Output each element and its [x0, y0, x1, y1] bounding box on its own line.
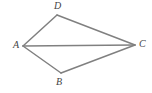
edge-group: [23, 15, 135, 73]
vertex-label-c: C: [139, 39, 146, 49]
vertex-label-d: D: [54, 1, 61, 11]
edge-a-b: [23, 46, 61, 73]
vertex-label-a: A: [13, 40, 19, 50]
figure-canvas: [0, 0, 152, 93]
edge-b-c: [61, 45, 135, 73]
edge-a-c-diagonal: [23, 45, 135, 46]
vertex-label-b: B: [56, 77, 62, 87]
edge-a-d: [23, 15, 57, 46]
geometry-figure: A B C D: [0, 0, 152, 93]
edge-d-c: [57, 15, 135, 45]
